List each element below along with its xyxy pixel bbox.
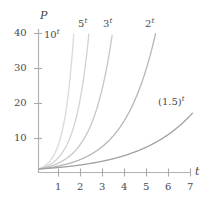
curve-label-2t: 2t [145, 18, 154, 29]
x-tick-label-3: 3 [99, 182, 105, 192]
x-tick-label-5: 5 [143, 182, 149, 192]
curve-label-10t-exponent: t [57, 28, 60, 36]
curve-(1.5)^t [39, 113, 193, 169]
x-tick-label-7: 7 [187, 182, 193, 192]
curve-label-3t-exponent: t [109, 17, 112, 25]
curve-3^t [39, 35, 113, 169]
x-axis-label: t [195, 166, 199, 177]
y-tick-label-30: 30 [14, 63, 27, 73]
curve-label-1.5t-exponent: t [182, 95, 185, 103]
y-axis-label: P [40, 10, 47, 21]
exponential-growth-chart: 40 30 20 10 1 2 3 4 5 6 7 P t 10t 5t 3t … [0, 0, 211, 201]
curve-2^t [39, 34, 156, 169]
curve-5^t [39, 34, 89, 169]
curve-label-5t: 5t [78, 18, 87, 29]
curve-label-1.5t: (1.5)t [158, 96, 185, 107]
x-tick-label-6: 6 [165, 182, 171, 192]
curve-label-2t-exponent: t [151, 17, 154, 25]
x-tick-label-4: 4 [121, 182, 127, 192]
curve-label-5t-exponent: t [84, 17, 87, 25]
y-tick-label-20: 20 [14, 98, 27, 108]
curve-label-10t: 10t [44, 29, 60, 40]
y-tick-label-10: 10 [14, 133, 27, 143]
y-tick-label-40: 40 [14, 28, 27, 38]
curve-label-1.5t-base: (1.5) [158, 96, 182, 107]
curve-10^t [39, 34, 74, 169]
curve-label-10t-base: 10 [44, 29, 57, 40]
curve-label-3t: 3t [103, 18, 112, 29]
x-tick-label-2: 2 [77, 182, 83, 192]
x-tick-label-1: 1 [55, 182, 61, 192]
